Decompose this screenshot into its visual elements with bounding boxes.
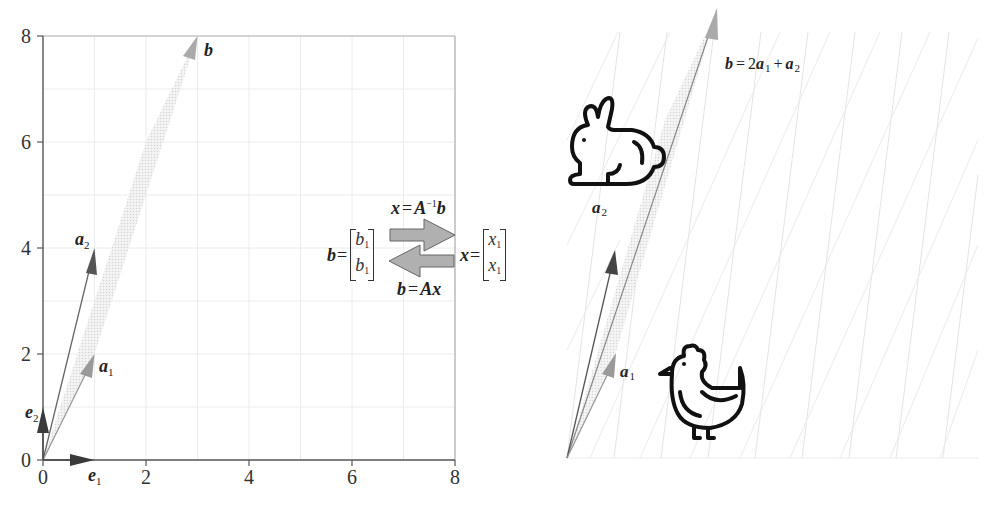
label-a1: a1: [99, 356, 114, 378]
x-tick-0: 0: [38, 466, 48, 488]
x-entry-1: x1: [488, 229, 501, 255]
x-tick-4: 4: [244, 466, 254, 488]
arrowhead-b: [183, 36, 198, 60]
grid-lines: [43, 36, 455, 460]
forward-arrow: [390, 219, 455, 251]
x-matrix: x1 x1: [483, 229, 506, 281]
left-plot: 0 2 4 6 8 0 2 4 6 8: [21, 25, 460, 488]
x-vector-equals: =: [470, 245, 480, 266]
right-arrowhead-b: [705, 8, 718, 40]
label-b: b: [204, 40, 213, 60]
x-tick-8: 8: [450, 466, 460, 488]
chicken-icon: [660, 346, 744, 439]
y-tick-8: 8: [21, 25, 31, 47]
y-tick-6: 6: [21, 131, 31, 153]
b-entry-1: b1: [355, 229, 369, 255]
arrowhead-a2: [86, 248, 97, 275]
right-vector-b: [567, 22, 713, 458]
x-column-vector: x = x1 x1: [460, 229, 508, 281]
arrowhead-e2: [37, 407, 49, 433]
y-tick-0: 0: [21, 449, 31, 471]
skewed-grid-a1: [567, 32, 978, 458]
label-e1: e1: [88, 465, 102, 487]
equation-b-combination: b=2a1+a2: [725, 55, 800, 74]
right-arrowhead-a2: [605, 250, 618, 275]
label-e2: e2: [25, 402, 39, 424]
b-vector-symbol: b: [327, 245, 336, 266]
x-tick-2: 2: [141, 466, 151, 488]
b-column-vector: b = b1 b1: [327, 229, 376, 281]
axis-ticks: [37, 36, 455, 466]
equation-inverse: x=A−1b: [391, 198, 446, 219]
right-plot: [567, 8, 978, 458]
y-tick-4: 4: [21, 237, 31, 259]
label-a2: a2: [75, 229, 90, 251]
b-entry-2: b1: [355, 255, 369, 281]
x-tick-6: 6: [347, 466, 357, 488]
b-matrix: b1 b1: [350, 229, 374, 281]
right-vector-a1: [567, 365, 612, 458]
x-vector-symbol: x: [460, 245, 469, 266]
chicken-label: a1: [620, 362, 635, 382]
inverse-arrow: [389, 245, 454, 277]
b-vector-equals: =: [337, 245, 347, 266]
y-tick-2: 2: [21, 343, 31, 365]
equation-forward: b=Ax: [397, 279, 441, 300]
rabbit-label: a2: [592, 198, 607, 218]
vector-e1: [43, 454, 95, 466]
x-entry-2: x1: [488, 255, 501, 281]
